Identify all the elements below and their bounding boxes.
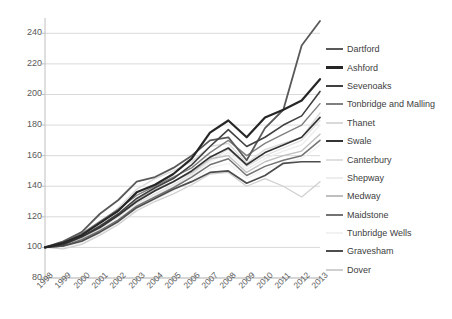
legend-label: Ashford (347, 63, 378, 73)
legend-line-swatch-icon (326, 66, 343, 68)
legend-line-swatch-icon (326, 103, 343, 105)
legend-item-medway[interactable]: Medway (326, 187, 452, 205)
y-tick-label: 160 (16, 151, 42, 160)
x-axis: 1998199920002001200220032004200520062007… (0, 278, 330, 319)
legend-label: Tonbridge and Malling (347, 99, 435, 109)
legend-item-tonbridge-and-malling[interactable]: Tonbridge and Malling (326, 95, 452, 113)
legend-item-dover[interactable]: Dover (326, 261, 452, 279)
legend-item-swale[interactable]: Swale (326, 132, 452, 150)
legend-item-sevenoaks[interactable]: Sevenoaks (326, 77, 452, 95)
legend-item-shepway[interactable]: Shepway (326, 169, 452, 187)
y-tick-label: 140 (16, 181, 42, 190)
y-tick-label: 120 (16, 212, 42, 221)
legend-label: Medway (347, 191, 381, 201)
legend-item-thanet[interactable]: Thanet (326, 114, 452, 132)
plot-svg (0, 0, 330, 300)
legend-line-swatch-icon (326, 85, 343, 87)
legend-line-swatch-icon (326, 122, 343, 124)
legend-item-dartford[interactable]: Dartford (326, 40, 452, 58)
legend-line-swatch-icon (326, 140, 343, 142)
legend-item-tunbridge-wells[interactable]: Tunbridge Wells (326, 224, 452, 242)
legend-line-swatch-icon (326, 250, 343, 252)
line-chart: 80100120140160180200220240 1998199920002… (0, 0, 452, 319)
y-tick-label: 200 (16, 89, 42, 98)
legend-line-swatch-icon (326, 48, 343, 50)
legend-item-maidstone[interactable]: Maidstone (326, 206, 452, 224)
legend-line-swatch-icon (326, 177, 343, 179)
legend-line-swatch-icon (326, 232, 343, 234)
legend-item-ashford[interactable]: Ashford (326, 58, 452, 76)
y-axis: 80100120140160180200220240 (12, 0, 42, 300)
series-line-ashford (45, 79, 320, 247)
legend-item-gravesham[interactable]: Gravesham (326, 242, 452, 260)
series-line-dartford (45, 21, 320, 247)
chart-legend: DartfordAshfordSevenoaksTonbridge and Ma… (326, 40, 452, 279)
legend-label: Dover (347, 265, 371, 275)
legend-item-canterbury[interactable]: Canterbury (326, 150, 452, 168)
legend-label: Sevenoaks (347, 81, 392, 91)
y-tick-label: 220 (16, 59, 42, 68)
legend-label: Swale (347, 136, 372, 146)
legend-label: Canterbury (347, 155, 392, 165)
legend-label: Shepway (347, 173, 384, 183)
legend-line-swatch-icon (326, 214, 343, 216)
y-tick-label: 240 (16, 28, 42, 37)
legend-label: Maidstone (347, 210, 389, 220)
legend-label: Dartford (347, 44, 380, 54)
legend-label: Gravesham (347, 246, 394, 256)
legend-line-swatch-icon (326, 269, 343, 271)
legend-label: Tunbridge Wells (347, 228, 412, 238)
y-tick-label: 180 (16, 120, 42, 129)
legend-label: Thanet (347, 118, 375, 128)
plot-area (0, 0, 330, 300)
y-tick-label: 100 (16, 242, 42, 251)
legend-line-swatch-icon (326, 159, 343, 161)
legend-line-swatch-icon (326, 195, 343, 197)
